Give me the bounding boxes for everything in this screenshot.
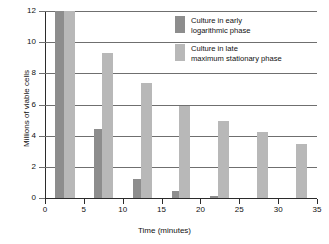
x-tick-label: 10: [111, 206, 135, 214]
y-tick-label: 6: [10, 101, 36, 109]
bar: [296, 144, 307, 198]
legend-label-stationary: Culture in late maximum stationary phase: [191, 44, 282, 63]
x-tick-label: 0: [33, 206, 57, 214]
bar: [102, 53, 113, 198]
y-tick-label: 8: [10, 69, 36, 77]
x-tick-label: 15: [150, 206, 174, 214]
x-tick-mark: [239, 199, 240, 204]
y-tick-label: 4: [10, 132, 36, 140]
bar: [141, 83, 152, 198]
y-tick-label: 12: [10, 7, 36, 15]
bar: [179, 106, 190, 198]
y-tick-label: 2: [10, 163, 36, 171]
x-axis-title: Time (minutes): [0, 226, 329, 235]
x-tick-mark: [162, 199, 163, 204]
x-tick-label: 35: [305, 206, 329, 214]
bar: [64, 11, 75, 198]
x-tick-label: 5: [72, 206, 96, 214]
legend-item-early: Culture in early logarithmic phase: [175, 16, 282, 35]
y-tick-label: 10: [10, 38, 36, 46]
legend-swatch-stationary: [175, 44, 185, 61]
bar-chart: Millions of viable cells 024681012 05101…: [0, 0, 329, 244]
x-tick-label: 25: [227, 206, 251, 214]
bar: [257, 132, 268, 198]
gridline: [45, 73, 317, 74]
gridline: [45, 11, 317, 12]
x-tick-label: 20: [188, 206, 212, 214]
x-tick-mark: [84, 199, 85, 204]
legend-swatch-early: [175, 16, 185, 33]
x-tick-mark: [200, 199, 201, 204]
x-tick-label: 30: [266, 206, 290, 214]
y-axis-title: Millions of viable cells: [22, 39, 31, 179]
y-tick-label: 0: [10, 194, 36, 202]
x-tick-mark: [45, 199, 46, 204]
legend-item-stationary: Culture in late maximum stationary phase: [175, 44, 282, 63]
legend-label-early: Culture in early logarithmic phase: [191, 16, 251, 35]
x-tick-mark: [317, 199, 318, 204]
x-tick-mark: [123, 199, 124, 204]
legend: Culture in early logarithmic phase Cultu…: [175, 16, 282, 72]
bar: [218, 121, 229, 198]
x-tick-mark: [278, 199, 279, 204]
x-axis-line: [45, 198, 317, 199]
